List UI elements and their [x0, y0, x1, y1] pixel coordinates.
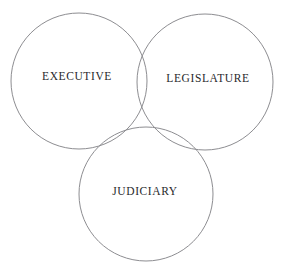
- label-executive: EXECUTIVE: [42, 71, 112, 83]
- venn-circles-canvas: [0, 0, 285, 276]
- label-legislature: LEGISLATURE: [166, 73, 249, 85]
- label-judiciary: JUDICIARY: [112, 186, 177, 198]
- venn-diagram: EXECUTIVE LEGISLATURE JUDICIARY: [0, 0, 285, 276]
